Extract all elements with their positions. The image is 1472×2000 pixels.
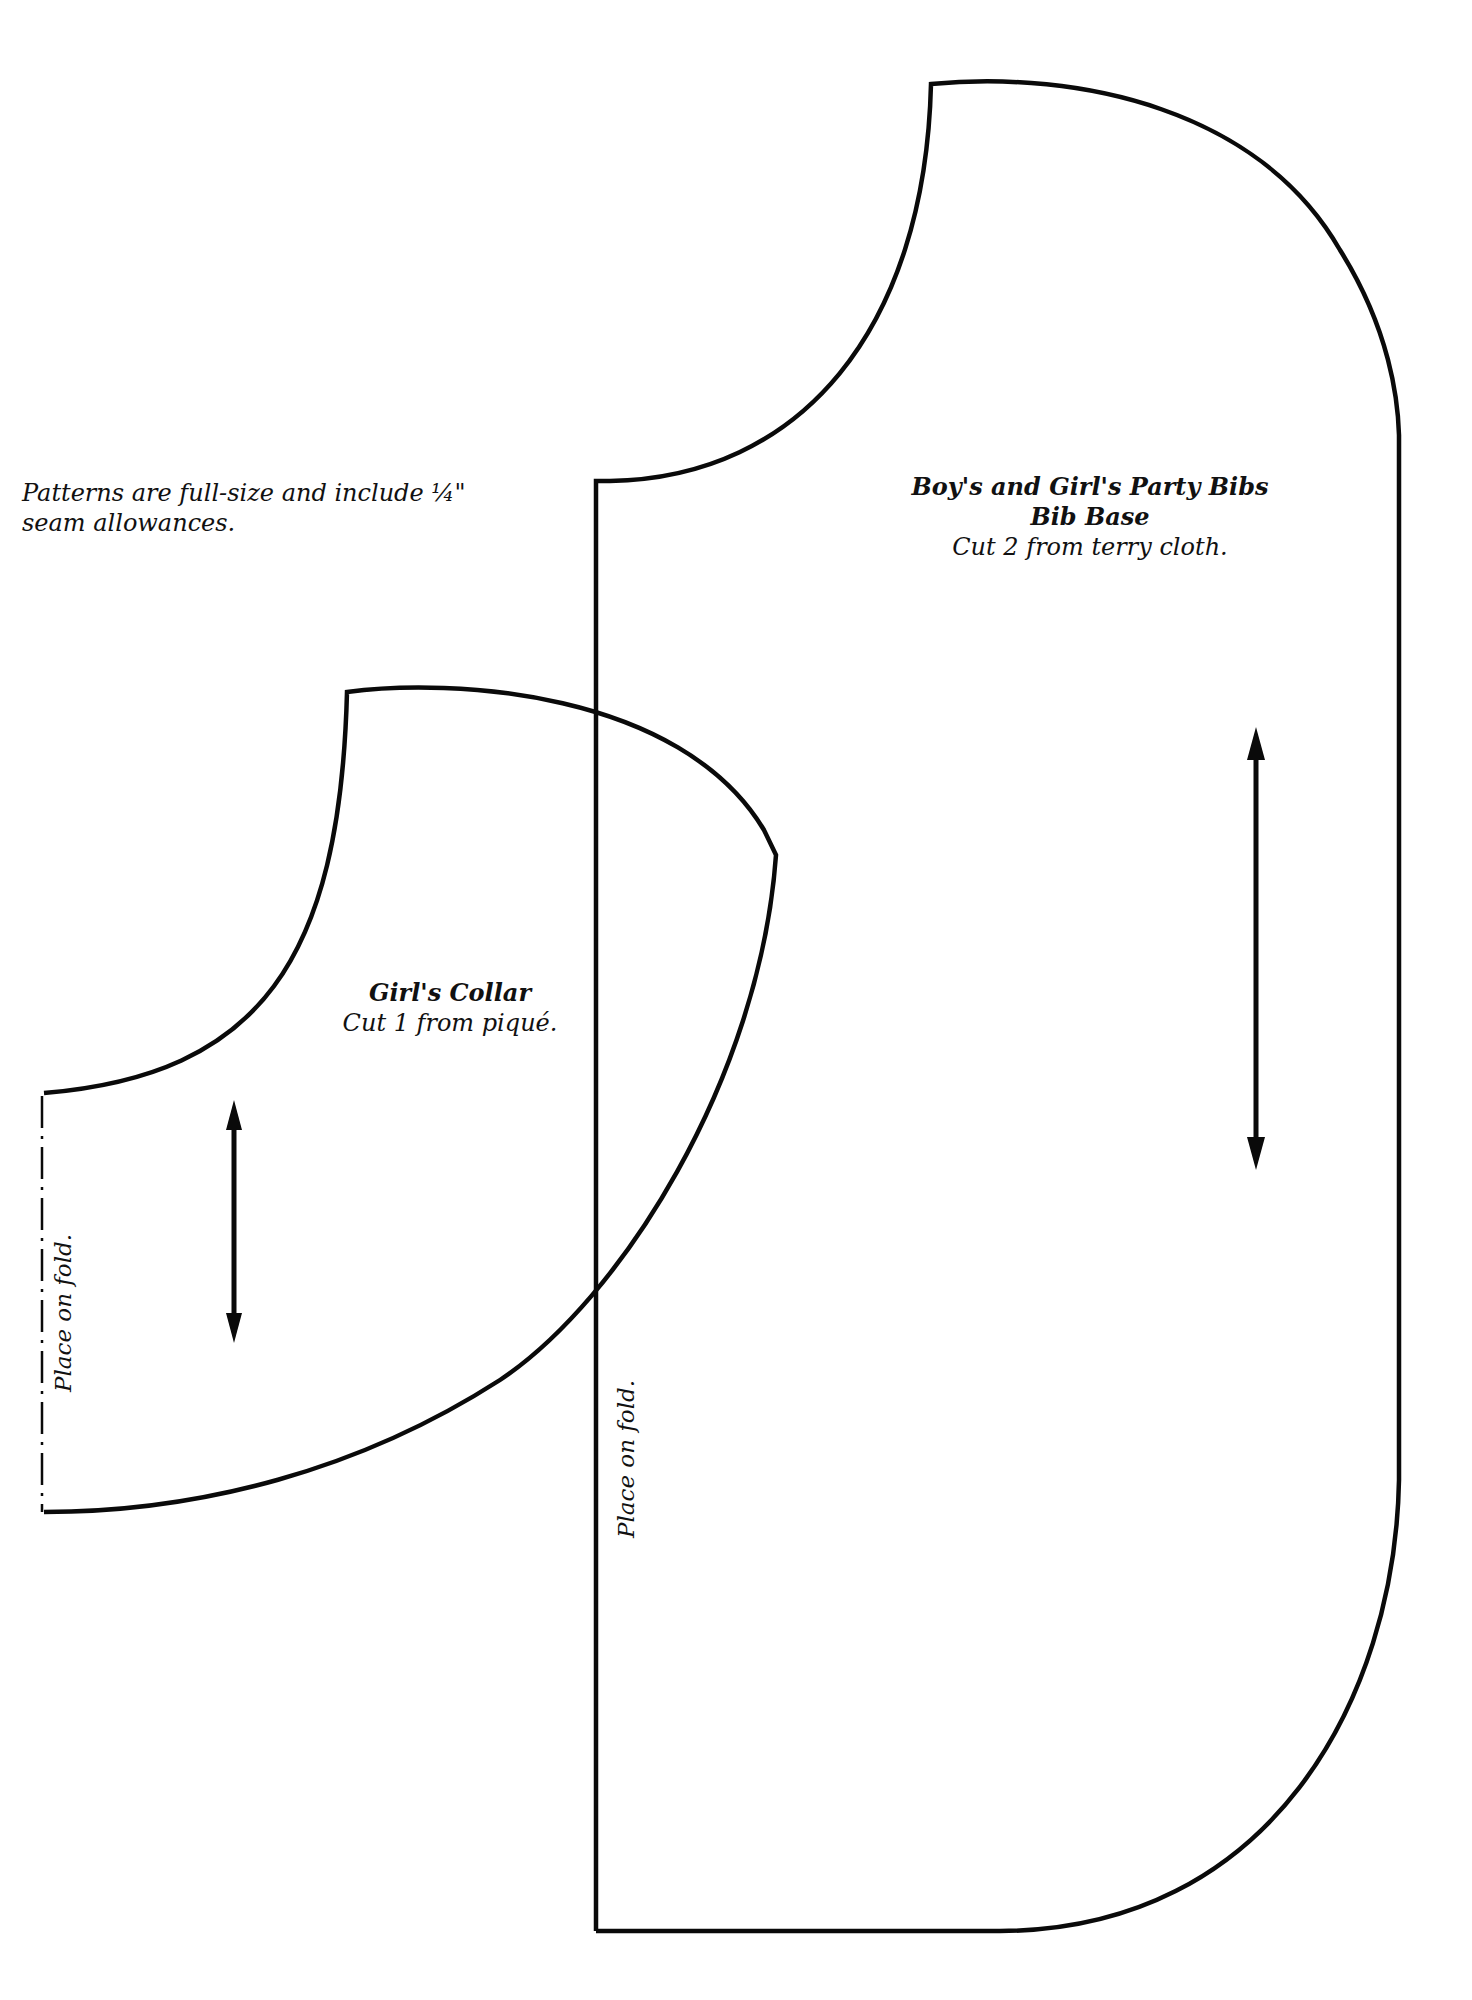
note-line-1: Patterns are full-size and include ¼" <box>22 478 466 508</box>
collar-grainline-icon <box>226 1100 242 1343</box>
note-line-2: seam allowances. <box>22 508 466 538</box>
bib-base-outline <box>596 81 1399 1931</box>
collar-outline <box>44 688 776 1512</box>
collar-fold-label: Place on fold. <box>50 1234 76 1392</box>
collar-title: Girl's Collar <box>343 978 558 1008</box>
bib-title: Boy's and Girl's Party Bibs <box>912 472 1269 502</box>
bib-base-label: Boy's and Girl's Party Bibs Bib Base Cut… <box>912 472 1269 562</box>
pattern-page: Patterns are full-size and include ¼" se… <box>0 0 1472 2000</box>
seam-allowance-note: Patterns are full-size and include ¼" se… <box>22 478 466 538</box>
bib-cut-instruction: Cut 2 from terry cloth. <box>912 532 1269 562</box>
bib-subtitle: Bib Base <box>912 502 1269 532</box>
bib-grainline-icon <box>1247 727 1265 1170</box>
collar-label: Girl's Collar Cut 1 from piqué. <box>343 978 558 1038</box>
pattern-drawing <box>0 0 1472 2000</box>
collar-cut-instruction: Cut 1 from piqué. <box>343 1008 558 1038</box>
bib-fold-label: Place on fold. <box>613 1380 639 1538</box>
